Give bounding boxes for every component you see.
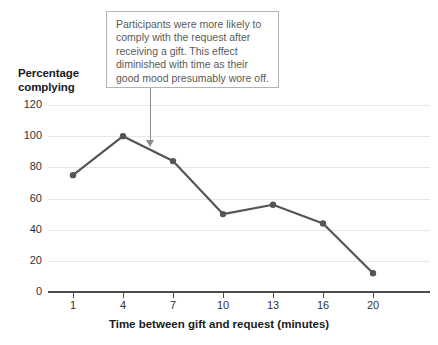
annotation-arrow-icon	[146, 140, 154, 147]
annotation-leader-line	[150, 88, 151, 141]
gridline	[48, 105, 430, 106]
y-axis-title: Percentage complying	[18, 66, 110, 94]
annotation-callout: Participants were more likely to comply …	[106, 11, 279, 88]
y-axis-title-line2: complying	[18, 80, 110, 94]
x-tick	[123, 293, 124, 298]
annotation-text: Participants were more likely to comply …	[116, 18, 269, 84]
y-tick-label: 60	[12, 192, 42, 204]
x-tick-label: 20	[358, 299, 388, 311]
gridline	[48, 136, 430, 137]
y-tick: 60	[8, 199, 42, 200]
y-tick-label: 20	[12, 254, 42, 266]
x-tick-label: 10	[208, 299, 238, 311]
y-tick: 40	[8, 230, 42, 231]
y-tick-label: 40	[12, 223, 42, 235]
x-tick-label: 1	[58, 299, 88, 311]
gridline	[48, 167, 430, 168]
x-tick-label: 7	[158, 299, 188, 311]
y-tick-label: 80	[12, 160, 42, 172]
x-tick-label: 16	[308, 299, 338, 311]
y-tick: 0	[8, 292, 42, 293]
gridline	[48, 261, 430, 262]
x-tick	[273, 293, 274, 298]
chart-figure: Percentage complying 020406080100120 147…	[0, 0, 438, 345]
x-tick	[173, 293, 174, 298]
plot-area	[48, 105, 430, 292]
x-tick-label: 13	[258, 299, 288, 311]
x-tick	[223, 293, 224, 298]
x-tick-label: 4	[108, 299, 138, 311]
y-tick: 120	[8, 105, 42, 106]
y-tick: 100	[8, 136, 42, 137]
x-tick	[323, 293, 324, 298]
gridline	[48, 199, 430, 200]
gridline	[48, 230, 430, 231]
y-tick-label: 0	[12, 285, 42, 297]
x-axis-title: Time between gift and request (minutes)	[0, 318, 438, 330]
y-tick: 20	[8, 261, 42, 262]
x-tick	[373, 293, 374, 298]
y-axis-title-line1: Percentage	[18, 66, 110, 80]
x-tick	[73, 293, 74, 298]
y-tick-label: 100	[12, 129, 42, 141]
y-tick-label: 120	[12, 98, 42, 110]
y-tick: 80	[8, 167, 42, 168]
